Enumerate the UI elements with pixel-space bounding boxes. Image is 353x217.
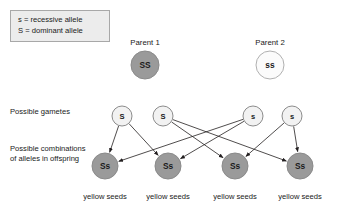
gamete-label: S	[160, 112, 165, 121]
row-label-possible-gametes: Possible gametes	[10, 107, 88, 117]
parent-title-2: Parent 2	[255, 38, 284, 47]
punnett-inheritance-diagram: s = recessive allele S = dominant allele…	[0, 0, 353, 217]
offspring-genotype-2: Ss	[155, 153, 181, 179]
gamete-3: s	[243, 106, 263, 126]
offspring-genotype-label: Ss	[100, 161, 111, 171]
offspring-genotype-4: Ss	[287, 153, 313, 179]
gamete-label: S	[119, 112, 124, 121]
parent-title-1: Parent 1	[130, 38, 159, 47]
parent-genotype-label: SS	[139, 60, 151, 70]
cross-arrow-group	[110, 119, 298, 161]
offspring-genotype-label: Ss	[163, 161, 174, 171]
cross-arrow-3	[172, 122, 223, 158]
cross-arrow-1	[110, 126, 119, 152]
legend-line-dominant: S = dominant allele	[18, 26, 104, 37]
seed-caption-1: yellow seeds	[83, 192, 126, 201]
gamete-2: S	[153, 106, 173, 126]
gamete-circle-group: SSss	[112, 106, 302, 126]
cross-arrow-5	[119, 119, 243, 161]
gamete-4: s	[282, 106, 302, 126]
parent-circle-group: SSss	[131, 51, 284, 79]
seed-caption-4: yellow seeds	[278, 192, 321, 201]
gamete-label: s	[251, 112, 255, 121]
cross-arrow-2	[129, 124, 158, 156]
cross-arrow-7	[246, 123, 284, 157]
offspring-genotype-label: Ss	[230, 161, 241, 171]
parent-genotype-1: SS	[131, 51, 159, 79]
offspring-genotype-1: Ss	[92, 153, 118, 179]
parent-genotype-label: ss	[265, 60, 275, 70]
legend-line-recessive: s = recessive allele	[18, 15, 104, 26]
offspring-circle-group: SsSsSsSs	[92, 153, 313, 179]
row-label-possible-combinations: Possible combinations of alleles in offs…	[10, 144, 88, 163]
offspring-genotype-label: Ss	[295, 161, 306, 171]
allele-legend: s = recessive allele S = dominant allele	[10, 10, 110, 42]
cross-arrow-8	[294, 126, 298, 151]
parent-genotype-2: ss	[256, 51, 284, 79]
gamete-label: s	[290, 112, 294, 121]
seed-caption-3: yellow seeds	[213, 192, 256, 201]
offspring-genotype-3: Ss	[222, 153, 248, 179]
gamete-1: S	[112, 106, 132, 126]
seed-caption-2: yellow seeds	[146, 192, 189, 201]
